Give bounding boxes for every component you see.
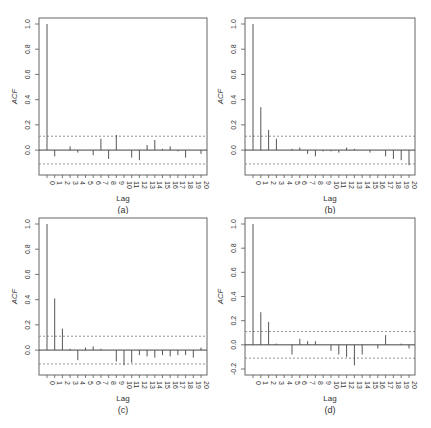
x-tick-label: 5 xyxy=(294,381,301,385)
y-tick-label: -0.2 xyxy=(230,363,237,375)
x-tick-label: 3 xyxy=(72,381,79,385)
x-tick-label: 4 xyxy=(79,181,86,185)
x-tick-label: 14 xyxy=(364,381,371,389)
y-tick-label: 0.0 xyxy=(24,345,31,355)
x-tick-label: 6 xyxy=(95,381,102,385)
x-tick-label: 9 xyxy=(325,381,332,385)
y-tick-label: 0.4 xyxy=(24,95,31,105)
x-tick-label: 1 xyxy=(56,181,63,185)
x-tick-label: 17 xyxy=(179,381,186,389)
x-tick-label: 2 xyxy=(64,381,71,385)
x-tick-label: 6 xyxy=(301,381,308,385)
panel-caption: (c) xyxy=(118,405,129,415)
x-tick-label: 5 xyxy=(87,381,94,385)
x-tick-label: 0 xyxy=(255,181,262,185)
x-tick-label: 11 xyxy=(340,381,347,388)
y-tick-label: 0.8 xyxy=(24,44,31,54)
plot-frame xyxy=(245,18,415,175)
x-tick-label: 18 xyxy=(187,181,194,189)
x-tick-label: 6 xyxy=(301,181,308,185)
x-tick-label: 20 xyxy=(411,381,418,389)
y-axis-label: ACF xyxy=(216,289,225,305)
acf-panel-d: -0.20.00.20.40.60.81.0012345678910111213… xyxy=(215,214,431,428)
y-tick-label: 0.6 xyxy=(230,267,237,277)
panel-caption: (a) xyxy=(118,205,129,214)
x-tick-label: 11 xyxy=(340,181,347,188)
x-tick-label: 20 xyxy=(203,181,210,189)
y-tick-label: 0.4 xyxy=(230,95,237,105)
y-tick-label: 1.0 xyxy=(24,219,31,229)
x-tick-label: 4 xyxy=(286,181,293,185)
y-tick-label: 0.0 xyxy=(230,340,237,350)
x-tick-label: 0 xyxy=(49,381,56,385)
x-tick-label: 10 xyxy=(126,381,133,389)
x-tick-label: 16 xyxy=(172,381,179,389)
x-tick-label: 7 xyxy=(102,181,109,185)
x-tick-label: 12 xyxy=(141,381,148,389)
y-tick-label: 0.2 xyxy=(230,316,237,326)
x-tick-label: 0 xyxy=(49,181,56,185)
y-axis-label: ACF xyxy=(216,89,225,105)
x-tick-label: 4 xyxy=(79,381,86,385)
y-tick-label: 0.0 xyxy=(230,145,237,155)
panel-caption: (b) xyxy=(325,205,336,214)
plot-frame xyxy=(39,218,207,375)
x-tick-label: 7 xyxy=(102,381,109,385)
y-tick-label: 1.0 xyxy=(230,219,237,229)
x-axis-label: Lag xyxy=(323,394,336,403)
x-tick-label: 19 xyxy=(195,181,202,189)
x-tick-label: 3 xyxy=(72,181,79,185)
x-tick-label: 15 xyxy=(372,181,379,189)
plot-frame xyxy=(39,18,207,175)
x-tick-label: 11 xyxy=(133,381,140,388)
y-tick-label: 0.0 xyxy=(24,145,31,155)
y-tick-label: 0.6 xyxy=(24,69,31,79)
x-tick-label: 2 xyxy=(270,181,277,185)
y-tick-label: 1.0 xyxy=(24,19,31,29)
x-tick-label: 17 xyxy=(387,381,394,389)
x-tick-label: 6 xyxy=(95,181,102,185)
y-tick-label: 0.2 xyxy=(24,320,31,330)
x-tick-label: 5 xyxy=(87,181,94,185)
x-tick-label: 15 xyxy=(164,381,171,389)
acf-panel-a: 0.00.20.40.60.81.00123456789101112131415… xyxy=(0,0,216,218)
x-tick-label: 16 xyxy=(379,381,386,389)
x-tick-label: 19 xyxy=(195,381,202,389)
x-tick-label: 12 xyxy=(348,381,355,389)
x-tick-label: 4 xyxy=(286,381,293,385)
x-tick-label: 3 xyxy=(278,381,285,385)
x-tick-label: 13 xyxy=(356,181,363,189)
x-tick-label: 14 xyxy=(156,381,163,389)
x-tick-label: 10 xyxy=(333,381,340,389)
y-tick-label: 0.4 xyxy=(24,295,31,305)
y-tick-label: 0.8 xyxy=(230,44,237,54)
x-tick-label: 17 xyxy=(179,181,186,189)
x-tick-label: 15 xyxy=(372,381,379,389)
y-tick-label: 1.0 xyxy=(230,19,237,29)
x-tick-label: 14 xyxy=(364,181,371,189)
x-tick-label: 18 xyxy=(395,181,402,189)
x-tick-label: 1 xyxy=(262,381,269,385)
x-tick-label: 19 xyxy=(403,381,410,389)
x-tick-label: 14 xyxy=(156,181,163,189)
x-tick-label: 1 xyxy=(56,381,63,385)
x-tick-label: 9 xyxy=(118,181,125,185)
x-tick-label: 12 xyxy=(141,181,148,189)
y-tick-label: 0.6 xyxy=(24,269,31,279)
y-tick-label: 0.2 xyxy=(24,120,31,130)
y-tick-label: 0.6 xyxy=(230,69,237,79)
x-tick-label: 1 xyxy=(262,181,269,185)
x-tick-label: 8 xyxy=(110,181,117,185)
x-tick-label: 18 xyxy=(187,381,194,389)
x-tick-label: 2 xyxy=(270,381,277,385)
x-tick-label: 9 xyxy=(325,181,332,185)
x-axis-label: Lag xyxy=(116,394,129,403)
x-tick-label: 16 xyxy=(379,181,386,189)
x-tick-label: 10 xyxy=(333,181,340,189)
x-axis-label: Lag xyxy=(116,194,129,203)
x-tick-label: 3 xyxy=(278,181,285,185)
x-tick-label: 2 xyxy=(64,181,71,185)
x-tick-label: 13 xyxy=(356,381,363,389)
plot-frame xyxy=(245,218,415,375)
y-tick-label: 0.4 xyxy=(230,292,237,302)
